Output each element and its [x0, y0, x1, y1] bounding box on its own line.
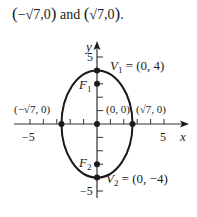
x-pos5-label: 5: [160, 130, 166, 144]
v2-point: [94, 175, 100, 181]
f2-point: [94, 161, 100, 167]
x-axis-label: x: [179, 129, 186, 144]
origin-label: (0, 0): [106, 103, 130, 116]
y-pos5-label: 5: [87, 50, 93, 64]
ellipse-graph: y x −5 5 5 −5 V1 = (0, 4) F1 F2 V2 = (0,…: [0, 0, 197, 217]
x-neg5-label: −5: [22, 130, 35, 144]
origin-point: [94, 121, 100, 127]
left-intercept-label: (−√7, 0): [14, 103, 50, 116]
left-intercept-point: [59, 121, 65, 127]
f1-label: F1: [78, 77, 91, 94]
right-intercept-point: [130, 121, 136, 127]
y-neg5-label: −5: [80, 184, 93, 198]
f1-point: [94, 81, 100, 87]
v1-point: [94, 67, 100, 73]
right-intercept-label: (√7, 0): [136, 103, 166, 116]
v2-label: V2 = (0, −4): [106, 171, 168, 188]
v1-label: V1 = (0, 4): [110, 58, 164, 75]
f2-label: F2: [78, 155, 91, 172]
